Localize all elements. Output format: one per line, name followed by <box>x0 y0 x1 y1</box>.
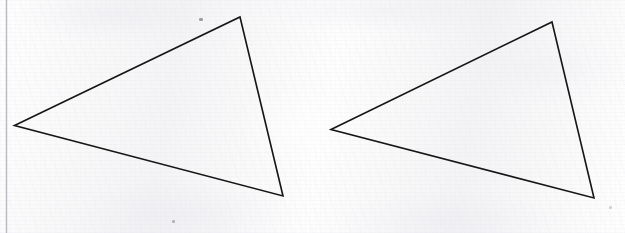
scanned-page <box>0 0 625 233</box>
paper-speck <box>172 220 175 223</box>
paper-speck <box>199 18 203 21</box>
drawing-canvas <box>0 0 625 233</box>
drawing-layer <box>0 0 625 233</box>
triangle-right-shape <box>331 22 594 198</box>
paper-speck <box>609 206 612 209</box>
triangle-left-shape <box>15 17 284 196</box>
